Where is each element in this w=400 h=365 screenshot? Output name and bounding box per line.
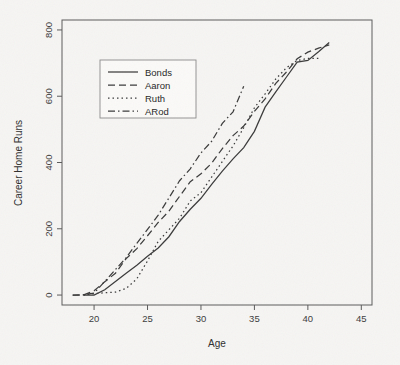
legend-label-arod: ARod <box>145 106 169 117</box>
y-tick-label: 200 <box>43 221 54 237</box>
x-tick-label: 20 <box>89 313 100 324</box>
y-tick-label: 800 <box>43 22 54 38</box>
career-home-runs-line-chart: 202530354045 0200400600800 Age Career Ho… <box>0 0 400 365</box>
x-tick-label: 25 <box>142 313 153 324</box>
chart-container: 202530354045 0200400600800 Age Career Ho… <box>0 0 400 365</box>
x-axis-title: Age <box>208 338 226 349</box>
legend-label-ruth: Ruth <box>145 93 165 104</box>
x-tick-label: 30 <box>196 313 207 324</box>
x-tick-label: 40 <box>303 313 314 324</box>
x-tick-label: 35 <box>249 313 260 324</box>
y-tick-label: 600 <box>43 88 54 104</box>
chart-legend: BondsAaronRuthARod <box>100 60 196 118</box>
legend-label-bonds: Bonds <box>145 67 172 78</box>
legend-label-aaron: Aaron <box>145 80 170 91</box>
y-tick-label: 400 <box>43 155 54 171</box>
chart-background <box>0 0 400 365</box>
x-tick-label: 45 <box>356 313 367 324</box>
y-axis-title: Career Home Runs <box>13 120 24 206</box>
y-tick-label: 0 <box>43 292 54 297</box>
